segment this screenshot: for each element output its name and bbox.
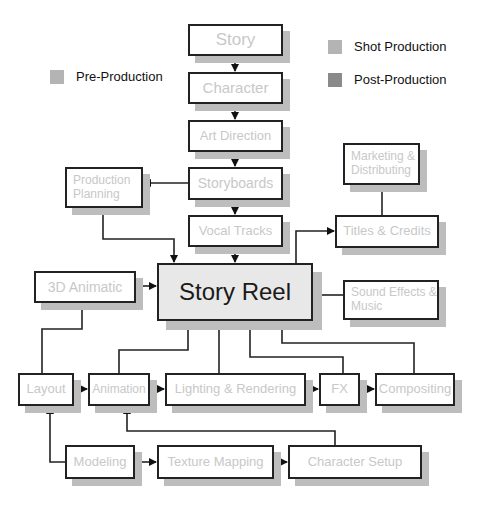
- node-character: Character: [188, 72, 283, 104]
- legend-pre-production: Pre-Production: [50, 69, 163, 84]
- node-animation: Animation: [88, 373, 150, 406]
- node-vocal-tracks: Vocal Tracks: [188, 215, 283, 247]
- node-compositing: Compositing: [375, 373, 455, 406]
- node-storyboards: Storyboards: [188, 167, 283, 200]
- legend-label: Shot Production: [354, 39, 447, 54]
- legend-swatch: [50, 70, 64, 84]
- node-3d-animatic: 3D Animatic: [34, 271, 136, 303]
- legend-label: Post-Production: [354, 72, 447, 87]
- node-texture-mapping: Texture Mapping: [157, 445, 274, 479]
- node-modeling: Modeling: [65, 445, 135, 479]
- node-lighting-rendering: Lighting & Rendering: [165, 373, 306, 406]
- node-sound-effects-music: Sound Effects & Music: [343, 280, 439, 320]
- node-story-reel: Story Reel: [157, 263, 313, 321]
- node-production-planning: Production Planning: [65, 167, 143, 208]
- legend-label: Pre-Production: [76, 69, 163, 84]
- node-titles-credits: Titles & Credits: [335, 215, 439, 248]
- legend-swatch: [328, 73, 342, 87]
- node-fx: FX: [319, 373, 360, 406]
- legend-swatch: [328, 40, 342, 54]
- node-story: Story: [188, 24, 283, 56]
- node-art-direction: Art Direction: [188, 120, 283, 152]
- node-layout: Layout: [18, 373, 74, 406]
- legend-post-production: Post-Production: [328, 72, 447, 87]
- node-marketing-distributing: Marketing & Distributing: [343, 143, 420, 185]
- legend-shot-production: Shot Production: [328, 39, 447, 54]
- node-character-setup: Character Setup: [288, 445, 422, 479]
